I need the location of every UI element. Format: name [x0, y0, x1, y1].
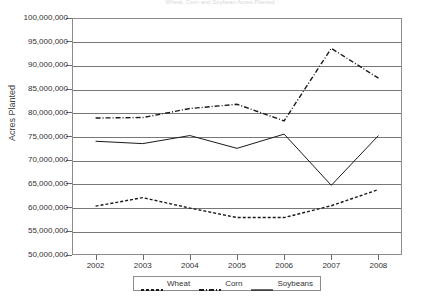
x-tick-mark [190, 255, 191, 260]
x-tick-mark [331, 255, 332, 260]
dotted-line-swatch [141, 280, 163, 288]
legend-item-soybeans[interactable]: Soybeans [251, 279, 313, 288]
x-tick-label: 2005 [214, 261, 260, 270]
y-tick-label: 50,000,000 [0, 251, 68, 259]
legend-item-wheat[interactable]: Wheat [141, 279, 190, 288]
x-tick-mark [378, 255, 379, 260]
x-tick-label: 2002 [73, 261, 119, 270]
x-tick-label: 2007 [308, 261, 354, 270]
x-tick-label: 2004 [167, 261, 213, 270]
solid-line-swatch [251, 280, 273, 288]
x-tick-label: 2006 [261, 261, 307, 270]
x-tick-label: 2008 [355, 261, 401, 270]
legend-label: Corn [225, 279, 242, 288]
y-tick-label: 70,000,000 [0, 156, 68, 164]
y-tick-label: 80,000,000 [0, 109, 68, 117]
series-line-soybeans [96, 134, 379, 185]
chart-title: Wheat, Corn and Soybean Acres Planted [70, 0, 370, 6]
legend-item-corn[interactable]: Corn [199, 279, 242, 288]
x-tick-mark [284, 255, 285, 260]
chart-legend: WheatCornSoybeans [133, 276, 321, 291]
x-tick-mark [96, 255, 97, 260]
y-tick-label: 100,000,000 [0, 14, 68, 22]
legend-label: Wheat [167, 279, 190, 288]
x-tick-mark [237, 255, 238, 260]
y-tick-label: 55,000,000 [0, 227, 68, 235]
y-tick-label: 95,000,000 [0, 38, 68, 46]
series-line-wheat [96, 190, 379, 218]
legend-label: Soybeans [277, 279, 313, 288]
y-tick-label: 90,000,000 [0, 61, 68, 69]
y-tick-label: 85,000,000 [0, 85, 68, 93]
line-chart-figure: Wheat, Corn and Soybean Acres Planted Ac… [0, 0, 427, 296]
y-tick-label: 65,000,000 [0, 180, 68, 188]
dash-dot-line-swatch [199, 280, 221, 288]
x-tick-mark [143, 255, 144, 260]
y-tick-label: 75,000,000 [0, 133, 68, 141]
y-tick-label: 60,000,000 [0, 204, 68, 212]
series-line-corn [96, 48, 379, 121]
series-layer [72, 18, 402, 255]
x-tick-label: 2003 [120, 261, 166, 270]
